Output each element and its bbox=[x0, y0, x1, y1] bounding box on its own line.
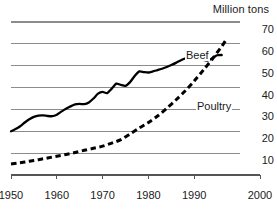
x-tick-label-1980: 1980 bbox=[128, 189, 168, 201]
plot-area bbox=[0, 0, 277, 212]
y-tick-label-20: 20 bbox=[244, 132, 274, 144]
plot-svg bbox=[0, 0, 277, 212]
x-tick-label-1970: 1970 bbox=[83, 189, 123, 201]
y-tick-label-10: 10 bbox=[244, 154, 274, 166]
y-tick-label-30: 30 bbox=[244, 110, 274, 122]
series-label-beef: Beef bbox=[185, 49, 210, 61]
x-tick-label-2000: 2000 bbox=[240, 189, 277, 201]
y-tick-label-60: 60 bbox=[244, 45, 274, 57]
y-tick-label-40: 40 bbox=[244, 89, 274, 101]
x-tick-label-1960: 1960 bbox=[37, 189, 77, 201]
series-line-beef bbox=[11, 55, 222, 131]
y-tick-label-70: 70 bbox=[244, 23, 274, 35]
series-label-poultry: Poultry bbox=[196, 100, 232, 112]
y-tick-label-50: 50 bbox=[244, 67, 274, 79]
x-tick-label-1950: 1950 bbox=[0, 189, 31, 201]
x-tick-label-1990: 1990 bbox=[174, 189, 214, 201]
gridlines bbox=[11, 22, 240, 153]
x-axis bbox=[11, 175, 260, 179]
chart-container: Million tons 70605040302010 195019601970… bbox=[0, 0, 277, 212]
